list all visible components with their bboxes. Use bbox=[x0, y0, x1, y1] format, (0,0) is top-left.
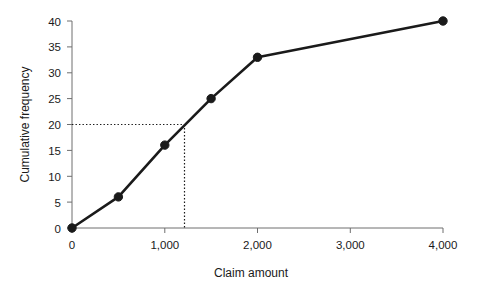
y-tick-label: 15 bbox=[48, 145, 61, 157]
y-axis-title: Cumulative frequency bbox=[18, 66, 32, 182]
y-tick-label: 20 bbox=[48, 119, 61, 131]
x-tick-label: 2,000 bbox=[243, 239, 272, 251]
data-point bbox=[439, 17, 447, 25]
y-axis-ticks bbox=[67, 21, 72, 228]
x-tick-label: 0 bbox=[69, 239, 75, 251]
data-point bbox=[207, 94, 215, 102]
chart-plot-area: 40 35 30 25 20 15 10 5 0 0 1,000 2,000 3… bbox=[0, 0, 482, 294]
data-point bbox=[253, 53, 261, 61]
median-guide-lines bbox=[72, 125, 185, 229]
y-axis-tick-labels: 40 35 30 25 20 15 10 5 0 bbox=[48, 16, 61, 235]
data-point bbox=[161, 141, 169, 149]
x-axis-ticks bbox=[72, 228, 443, 233]
y-tick-label: 30 bbox=[48, 67, 61, 79]
y-tick-label: 5 bbox=[55, 197, 61, 209]
y-tick-label: 0 bbox=[55, 223, 61, 235]
y-tick-label: 25 bbox=[48, 93, 61, 105]
x-tick-label: 1,000 bbox=[150, 239, 179, 251]
y-tick-label: 10 bbox=[48, 171, 61, 183]
x-tick-label: 4,000 bbox=[429, 239, 458, 251]
x-tick-label: 3,000 bbox=[336, 239, 365, 251]
data-point bbox=[114, 193, 122, 201]
x-axis-tick-labels: 0 1,000 2,000 3,000 4,000 bbox=[69, 239, 458, 251]
y-tick-label: 35 bbox=[48, 41, 61, 53]
cumulative-frequency-chart: 40 35 30 25 20 15 10 5 0 0 1,000 2,000 3… bbox=[0, 0, 482, 294]
y-tick-label: 40 bbox=[48, 16, 61, 28]
data-point bbox=[68, 224, 76, 232]
cumulative-frequency-line bbox=[72, 21, 443, 228]
x-axis-title: Claim amount bbox=[214, 266, 289, 280]
